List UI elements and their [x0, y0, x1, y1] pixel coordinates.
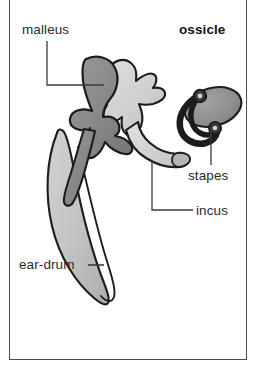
ossicle-anatomy-diagram [0, 0, 260, 369]
label-malleus: malleus [22, 22, 69, 37]
figure-root: malleus ossicle stapes incus ear-drum [0, 0, 260, 369]
label-ear-drum: ear-drum [19, 257, 75, 272]
stapes-shape [180, 81, 246, 144]
label-incus: incus [196, 203, 228, 218]
label-stapes: stapes [188, 168, 228, 183]
label-ossicle-title: ossicle [179, 22, 225, 37]
